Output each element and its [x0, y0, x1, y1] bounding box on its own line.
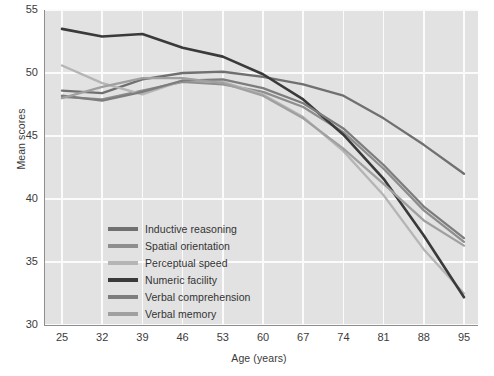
x-tick-label: 25 — [42, 331, 82, 343]
x-tick-label: 53 — [203, 331, 243, 343]
chart-figure: Mean scores Inductive reasoningSpatial o… — [0, 0, 494, 376]
x-tick-label: 39 — [122, 331, 162, 343]
y-tick-label: 40 — [6, 192, 38, 204]
y-tick-label: 45 — [6, 129, 38, 141]
y-axis-ticks: 303540455055 — [0, 0, 494, 376]
y-tick-label: 50 — [6, 66, 38, 78]
x-tick-label: 74 — [323, 331, 363, 343]
y-tick-label: 35 — [6, 255, 38, 267]
x-tick-label: 46 — [163, 331, 203, 343]
y-tick-label: 55 — [6, 3, 38, 15]
x-tick-label: 81 — [364, 331, 404, 343]
x-tick-label: 88 — [404, 331, 444, 343]
x-tick-label: 95 — [444, 331, 484, 343]
x-tick-label: 67 — [283, 331, 323, 343]
y-tick-label: 30 — [6, 318, 38, 330]
x-axis-title: Age (years) — [40, 352, 478, 364]
x-tick-label: 60 — [243, 331, 283, 343]
x-tick-label: 32 — [82, 331, 122, 343]
